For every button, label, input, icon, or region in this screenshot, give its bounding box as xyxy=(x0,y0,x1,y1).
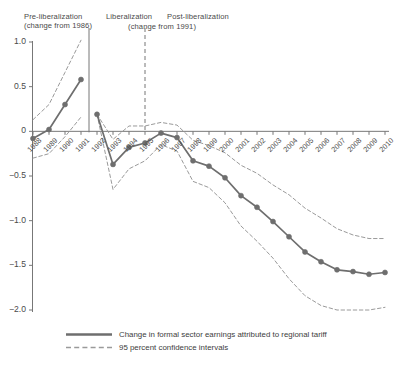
data-point xyxy=(351,269,356,274)
data-point xyxy=(271,219,276,224)
y-axis-tick-label: 0 xyxy=(0,125,26,135)
data-point xyxy=(319,259,324,264)
legend-item-ci: 95 percent confidence intervals xyxy=(0,343,409,352)
data-point xyxy=(367,272,372,277)
y-axis-tick-label: −1.0 xyxy=(0,215,26,225)
legend-label-series: Change in formal sector earnings attribu… xyxy=(119,330,327,339)
y-axis-tick-label: 1.0 xyxy=(0,36,26,46)
data-point xyxy=(287,234,292,239)
legend-swatch-dashed xyxy=(66,343,112,352)
ci-upper-pre-liberalization xyxy=(33,40,81,120)
data-point xyxy=(191,158,196,163)
data-point xyxy=(207,164,212,169)
data-point xyxy=(303,249,308,254)
chart-figure: Pre-liberalization (change from 1986) Li… xyxy=(0,0,409,369)
data-point xyxy=(255,205,260,210)
data-point xyxy=(335,267,340,272)
legend-item-series: Change in formal sector earnings attribu… xyxy=(0,330,409,339)
data-point xyxy=(239,193,244,198)
data-point xyxy=(383,270,388,275)
legend-label-ci: 95 percent confidence intervals xyxy=(119,343,228,352)
data-point xyxy=(159,131,164,136)
plot-area xyxy=(0,0,409,369)
y-axis-tick-label: 0.5 xyxy=(0,81,26,91)
y-axis-tick-label: −0.5 xyxy=(0,170,26,180)
y-axis-tick-label: −2.0 xyxy=(0,304,26,314)
data-point xyxy=(47,127,52,132)
legend: Change in formal sector earnings attribu… xyxy=(0,330,409,356)
data-point xyxy=(111,162,116,167)
data-point xyxy=(79,77,84,82)
data-point xyxy=(95,112,100,117)
data-point xyxy=(63,102,68,107)
data-point xyxy=(223,175,228,180)
legend-swatch-solid xyxy=(66,330,112,339)
y-axis-tick-label: −1.5 xyxy=(0,259,26,269)
